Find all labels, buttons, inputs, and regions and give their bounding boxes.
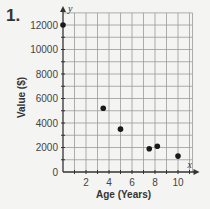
data-point (100, 106, 106, 112)
svg-text:10000: 10000 (30, 44, 58, 55)
svg-text:6000: 6000 (36, 93, 59, 104)
svg-text:8000: 8000 (36, 69, 59, 80)
svg-text:6: 6 (129, 177, 135, 188)
svg-text:10: 10 (172, 177, 184, 188)
svg-text:4000: 4000 (36, 118, 59, 129)
grid-lines (63, 13, 193, 172)
svg-text:4: 4 (106, 177, 112, 188)
svg-text:8: 8 (152, 177, 158, 188)
svg-text:2000: 2000 (36, 142, 59, 153)
data-point (155, 143, 161, 149)
svg-text:2: 2 (83, 177, 89, 188)
tick-labels: 246810200040006000800010000120000 (30, 20, 184, 189)
svg-text:x: x (187, 159, 193, 170)
data-point (118, 126, 124, 132)
scatter-plot: yx 246810200040006000800010000120000 (0, 0, 210, 209)
axes: yx (60, 3, 200, 175)
data-point (146, 146, 152, 152)
data-point (60, 22, 66, 28)
svg-text:0: 0 (52, 167, 58, 178)
svg-text:12000: 12000 (30, 20, 58, 31)
data-point (175, 153, 181, 159)
svg-text:y: y (67, 3, 73, 14)
